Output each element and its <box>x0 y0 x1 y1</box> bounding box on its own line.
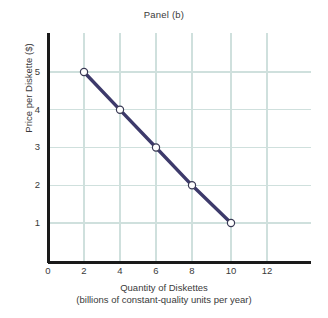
x-tick-label-2: 2 <box>73 265 95 276</box>
data-point-6-3 <box>152 144 159 151</box>
data-point-10-1 <box>227 219 234 226</box>
x-tick-label-0: 0 <box>37 265 59 276</box>
x-tick-label-10: 10 <box>220 265 242 276</box>
x-tick-label-8: 8 <box>181 265 203 276</box>
y-tick-label-2: 2 <box>24 179 40 191</box>
y-tick-label-1: 1 <box>24 217 40 229</box>
horizontal-gridlines <box>48 72 311 223</box>
chart-figure: Panel (b) <box>0 0 328 318</box>
x-axis-title-block: Quantity of Diskettes (billions of const… <box>0 282 328 305</box>
y-axis-title: Price per Diskette ($) <box>23 43 34 132</box>
x-tick-label-6: 6 <box>145 265 167 276</box>
x-axis-title-subtitle: (billions of constant-quality units per … <box>0 294 328 305</box>
data-point-2-5 <box>80 68 87 75</box>
data-point-8-2 <box>188 182 195 189</box>
x-axis-title: Quantity of Diskettes <box>0 282 328 293</box>
data-point-4-4 <box>116 106 123 113</box>
x-tick-label-12: 12 <box>256 265 278 276</box>
x-tick-label-4: 4 <box>109 265 131 276</box>
y-axis-title-wrapper: Price per Diskette ($) <box>18 0 34 178</box>
